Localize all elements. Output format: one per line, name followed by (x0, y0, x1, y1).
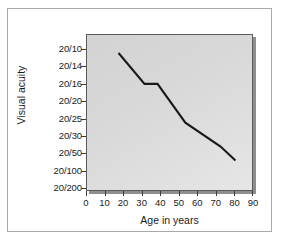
y-tick-label: 20/10 (26, 44, 82, 54)
figure-canvas: Visual acuity 20/1020/1420/1620/2020/252… (0, 0, 285, 242)
y-tick-label: 20/100 (26, 166, 82, 176)
x-tick-mark (216, 191, 217, 196)
x-axis-ticklabels: 0102030405060708090 (86, 197, 253, 210)
x-tick-mark (160, 191, 161, 196)
y-tick-label: 20/16 (26, 79, 82, 89)
x-tick-mark (234, 191, 235, 196)
figure-outer-frame: Visual acuity 20/1020/1420/1620/2020/252… (7, 8, 272, 232)
x-tick-mark (252, 191, 253, 196)
y-tick-label: 20/25 (26, 114, 82, 124)
x-tick-mark (105, 191, 106, 196)
y-tick-label: 20/20 (26, 96, 82, 106)
x-axis-label: Age in years (86, 214, 253, 226)
y-tick-label: 20/14 (26, 61, 82, 71)
x-tick-mark (86, 191, 87, 196)
x-tick-mark (197, 191, 198, 196)
y-tick-label: 20/50 (26, 148, 82, 158)
data-line-svg (87, 35, 254, 192)
x-tick-mark (142, 191, 143, 196)
plot-area (86, 34, 253, 191)
y-tick-label: 20/200 (26, 183, 82, 193)
x-tick-label: 90 (242, 197, 264, 208)
y-tick-label: 20/30 (26, 131, 82, 141)
x-tick-mark (179, 191, 180, 196)
x-tick-mark (123, 191, 124, 196)
acuity-decline-line (119, 53, 236, 161)
y-axis-ticklabels: 20/1020/1420/1620/2020/2520/3020/5020/10… (26, 34, 82, 191)
